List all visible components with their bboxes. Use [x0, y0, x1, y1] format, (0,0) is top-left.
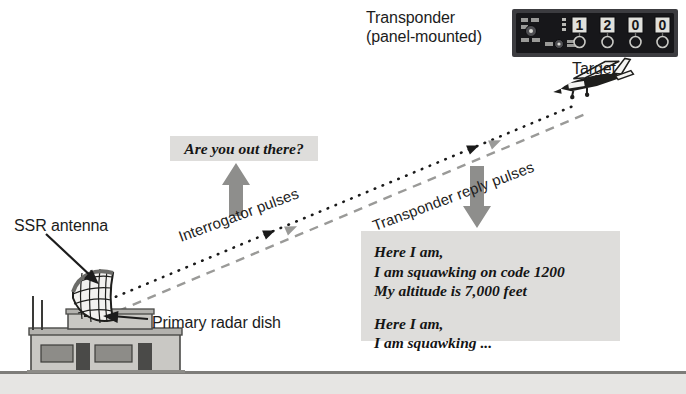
- interrogator-arrowhead-2: [466, 141, 481, 155]
- code-digit-0: 1: [572, 17, 587, 48]
- target-label: Target: [572, 59, 616, 78]
- radar-building: [27, 296, 185, 373]
- reply-arrowhead-2: [488, 136, 503, 150]
- interrogator-arrowhead-1: [262, 226, 277, 240]
- transponder-reply-lamp: [562, 18, 566, 31]
- code-digit-value-0: 1: [576, 17, 584, 33]
- transponder-label: Transponder(panel-mounted): [366, 8, 482, 46]
- ground-line: [0, 371, 686, 374]
- code-digit-value-1: 2: [604, 17, 612, 33]
- ssr-antenna-label: SSR antenna: [14, 216, 108, 235]
- reply-line-2: I am squawking on code 1200: [374, 262, 620, 282]
- ssr-radar-diagram: 1 2 0 0: [0, 0, 686, 394]
- reply-block-2: Here I am, I am squawking ...: [361, 301, 620, 353]
- code-digit-3: 0: [655, 17, 670, 48]
- code-digit-value-2: 0: [632, 17, 640, 33]
- reply-line-1: Here I am,: [374, 242, 620, 262]
- interrogator-pulses-label: Interrogator pulses: [176, 185, 301, 245]
- transponder-label-line1: Transponder: [366, 9, 455, 26]
- reply-line-3: My altitude is 7,000 feet: [374, 281, 620, 301]
- ssr-antenna: [73, 269, 113, 323]
- primary-radar-dish-label: Primary radar dish: [152, 313, 281, 332]
- reply-arrowhead-1: [284, 222, 299, 236]
- reply-block-1: Here I am, I am squawking on code 1200 M…: [361, 231, 620, 301]
- transponder-unit: 1 2 0 0: [512, 9, 678, 57]
- reply-line-5: I am squawking ...: [374, 333, 620, 353]
- ssr-antenna-pointer: [46, 234, 103, 289]
- reply-line-4: Here I am,: [374, 314, 620, 334]
- code-digit-value-3: 0: [659, 17, 667, 33]
- question-message-box: Are you out there?: [170, 136, 318, 161]
- primary-radar-pointer: [103, 310, 148, 323]
- ground-band: [0, 373, 686, 394]
- transponder-unit-svg: 1 2 0 0: [512, 9, 678, 57]
- transponder-label-line2: (panel-mounted): [366, 28, 482, 45]
- code-digit-1: 2: [600, 17, 615, 48]
- transponder-reply-pulses-label: Transponder reply pulses: [370, 158, 536, 234]
- transponder-face: [516, 13, 674, 53]
- code-digit-2: 0: [628, 17, 643, 48]
- reply-message-box: Here I am, I am squawking on code 1200 M…: [361, 231, 620, 341]
